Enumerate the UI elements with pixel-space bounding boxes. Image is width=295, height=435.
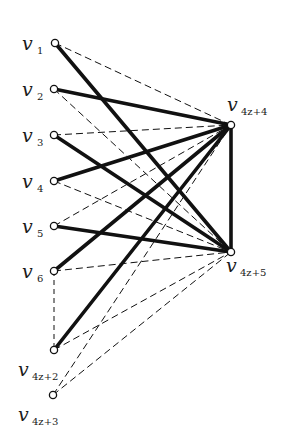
edge-v4z2-v4z5 bbox=[54, 252, 231, 350]
edge-v6-v4z5 bbox=[54, 252, 231, 271]
edge-v1-v4z4 bbox=[55, 43, 231, 125]
node-subscript-v2: 2 bbox=[37, 91, 43, 102]
edge-v2-v4z5 bbox=[54, 89, 231, 252]
edge-v4z3-v4z5 bbox=[53, 252, 231, 395]
node-v2 bbox=[50, 85, 57, 92]
node-v6 bbox=[50, 267, 57, 274]
node-label-v4z3: v bbox=[18, 403, 29, 425]
node-label-v3: v bbox=[22, 124, 33, 146]
edge-v2-v4z4 bbox=[54, 89, 231, 125]
edges-layer bbox=[53, 43, 231, 395]
node-v5 bbox=[50, 222, 57, 229]
node-v4z4 bbox=[227, 121, 234, 128]
node-label-v5: v bbox=[22, 215, 33, 237]
node-subscript-v4z5: 4z+5 bbox=[240, 267, 266, 278]
node-v4z3 bbox=[49, 391, 56, 398]
edge-v5-v4z4 bbox=[54, 125, 231, 226]
node-subscript-v4: 4 bbox=[37, 183, 43, 194]
node-v3 bbox=[50, 131, 57, 138]
bipartite-graph-diagram: v1v2v3v4v5v6v4z+2v4z+3v4z+4v4z+5 bbox=[0, 0, 295, 435]
node-label-v1: v bbox=[22, 32, 33, 54]
node-label-v2: v bbox=[22, 78, 33, 100]
node-v4 bbox=[50, 177, 57, 184]
node-label-v4: v bbox=[22, 170, 33, 192]
node-subscript-v4z3: 4z+3 bbox=[32, 416, 58, 427]
node-label-v4z2: v bbox=[18, 358, 29, 380]
node-subscript-v5: 5 bbox=[37, 228, 43, 239]
node-v1 bbox=[51, 39, 58, 46]
node-subscript-v4z2: 4z+2 bbox=[32, 371, 58, 382]
node-subscript-v3: 3 bbox=[37, 137, 43, 148]
node-label-v4z5: v bbox=[226, 254, 237, 276]
node-label-v4z4: v bbox=[227, 93, 238, 115]
edge-v4z3-v4z4 bbox=[53, 125, 231, 395]
node-v4z2 bbox=[50, 346, 57, 353]
node-subscript-v6: 6 bbox=[37, 273, 43, 284]
node-subscript-v4z4: 4z+4 bbox=[241, 106, 267, 117]
edge-v4z2-v4z4 bbox=[54, 125, 231, 350]
node-subscript-v1: 1 bbox=[37, 45, 43, 56]
node-label-v6: v bbox=[22, 260, 33, 282]
